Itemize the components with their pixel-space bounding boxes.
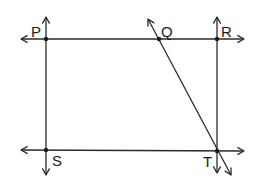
point-label: T [203,153,212,170]
point-label: Q [161,23,173,40]
point-label: R [221,23,232,40]
line-ST-segment [21,150,244,151]
points-layer: PQRST [31,23,232,170]
point-Q: Q [157,23,173,41]
point-dot-icon [44,37,48,41]
point-dot-icon [215,37,219,41]
point-label: S [52,152,62,169]
point-dot-icon [215,149,219,153]
geometry-diagram: PQRST [0,0,257,183]
line-PR [21,36,244,43]
point-dot-icon [44,148,48,152]
point-label: P [31,23,41,40]
